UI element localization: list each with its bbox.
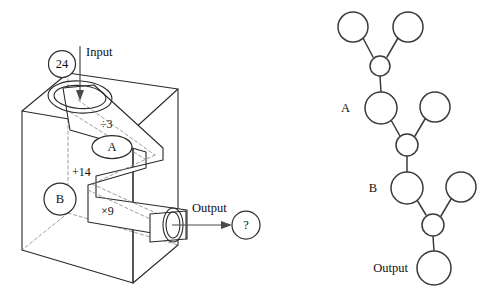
- tree-node-top-right: [393, 12, 423, 42]
- tree-edge: [433, 236, 434, 251]
- operation-label-2: +14: [72, 165, 91, 179]
- tree-edge: [415, 119, 425, 136]
- circle-tree-diagram: A B Output: [338, 12, 476, 285]
- input-label: Input: [86, 45, 113, 59]
- function-machine-box: 24 Input ÷3 A +14 B ×9 Output: [22, 45, 260, 283]
- stage-a-bubble: A: [92, 136, 132, 159]
- tree-node-top-left: [338, 12, 368, 42]
- figure-canvas: 24 Input ÷3 A +14 B ×9 Output: [0, 0, 493, 298]
- tree-edge: [417, 200, 426, 215]
- tree-nodes: [338, 12, 476, 285]
- stage-b-bubble: B: [44, 183, 76, 215]
- tree-label-a: A: [341, 101, 350, 115]
- tree-node-branch-2: [446, 172, 476, 202]
- tree-label-b: B: [369, 181, 377, 195]
- tree-edge: [441, 199, 451, 216]
- stage-b-text: B: [56, 192, 64, 206]
- tree-node-join-3: [422, 214, 444, 236]
- tree-node-branch-1: [420, 92, 450, 122]
- input-value-text: 24: [56, 57, 69, 71]
- tree-edge: [387, 38, 398, 57]
- tree-node-join-1: [370, 56, 390, 76]
- output-value-text: ?: [243, 218, 249, 232]
- tree-node-join-2: [396, 134, 418, 156]
- input-value-bubble: 24: [49, 51, 76, 78]
- tree-node-b: [391, 172, 423, 204]
- stage-a-text: A: [107, 140, 116, 154]
- operation-label-1: ÷3: [100, 117, 113, 131]
- tree-node-a: [365, 92, 397, 124]
- tree-label-output: Output: [373, 261, 408, 275]
- tree-node-output: [417, 251, 451, 285]
- output-label: Output: [192, 201, 227, 215]
- tree-edge: [380, 76, 381, 92]
- tree-edge: [363, 38, 373, 57]
- operation-label-3: ×9: [101, 204, 114, 218]
- tree-edge: [391, 120, 400, 136]
